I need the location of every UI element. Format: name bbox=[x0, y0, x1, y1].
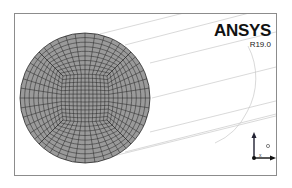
version-label: R19.0 bbox=[214, 40, 271, 50]
svg-text:x: x bbox=[259, 152, 262, 158]
ansys-logo: ANSYS R19.0 bbox=[214, 22, 271, 50]
logo-title: ANSYS bbox=[214, 22, 271, 39]
axis-triad-icon: x bbox=[248, 130, 276, 162]
mesh-disc bbox=[20, 33, 150, 163]
